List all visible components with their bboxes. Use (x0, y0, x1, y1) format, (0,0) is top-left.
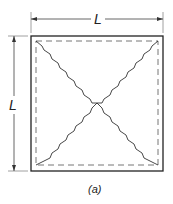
left-dimension-label: L (9, 96, 17, 114)
arrow-left-icon (31, 17, 37, 21)
diagonal-wave-2 (36, 41, 158, 165)
square-plate-diagram (0, 0, 173, 204)
arrow-right-icon (157, 17, 163, 21)
figure-caption: (a) (88, 184, 101, 195)
arrow-down-icon (12, 165, 16, 171)
top-dimension-label: L (91, 12, 105, 26)
arrow-up-icon (12, 36, 16, 42)
